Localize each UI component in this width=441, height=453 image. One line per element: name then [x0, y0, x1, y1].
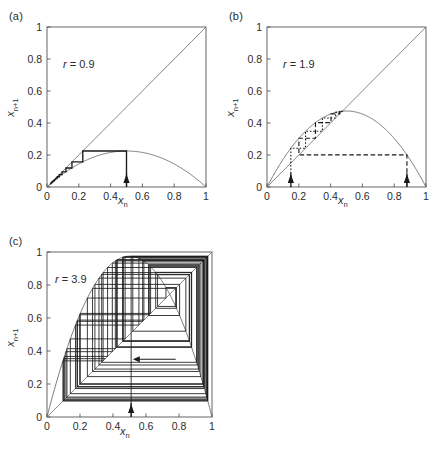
svg-text:1: 1 — [36, 21, 42, 33]
svg-text:0.2: 0.2 — [27, 378, 42, 390]
svg-text:0.2: 0.2 — [73, 420, 88, 432]
svg-text:0: 0 — [36, 181, 42, 193]
svg-text:0.6: 0.6 — [139, 420, 154, 432]
svg-text:0: 0 — [264, 190, 270, 202]
svg-text:1: 1 — [209, 420, 215, 432]
logistic-map-cobweb-figure: (a) r = 0.9 xn xn+1 00.20.40.60.8100.20.… — [0, 0, 441, 453]
svg-text:0.4: 0.4 — [323, 190, 338, 202]
svg-text:0.6: 0.6 — [355, 190, 370, 202]
svg-text:0: 0 — [36, 411, 42, 423]
svg-text:0.4: 0.4 — [27, 117, 42, 129]
svg-text:0.8: 0.8 — [247, 53, 262, 65]
svg-text:0.8: 0.8 — [172, 420, 187, 432]
svg-text:0.8: 0.8 — [27, 279, 42, 291]
svg-text:0: 0 — [256, 181, 262, 193]
svg-text:1: 1 — [256, 21, 262, 33]
svg-text:0.4: 0.4 — [106, 420, 121, 432]
svg-text:0.2: 0.2 — [247, 149, 262, 161]
svg-text:1: 1 — [36, 246, 42, 258]
svg-text:0.4: 0.4 — [27, 345, 42, 357]
svg-text:0.2: 0.2 — [27, 149, 42, 161]
svg-text:0.8: 0.8 — [27, 53, 42, 65]
svg-text:0.4: 0.4 — [103, 190, 118, 202]
panel-a-plot: 00.20.40.60.8100.20.40.60.81 — [0, 0, 220, 210]
svg-text:1: 1 — [423, 190, 429, 202]
svg-text:0.4: 0.4 — [247, 117, 262, 129]
svg-text:0.8: 0.8 — [387, 190, 402, 202]
panel-c-plot: 00.20.40.60.8100.20.40.60.81 — [0, 225, 230, 440]
svg-text:0: 0 — [44, 420, 50, 432]
svg-text:1: 1 — [203, 190, 209, 202]
svg-text:0.2: 0.2 — [71, 190, 86, 202]
svg-text:0.6: 0.6 — [27, 312, 42, 324]
svg-text:0.6: 0.6 — [247, 85, 262, 97]
svg-text:0.6: 0.6 — [135, 190, 150, 202]
svg-text:0.8: 0.8 — [167, 190, 182, 202]
svg-text:0: 0 — [44, 190, 50, 202]
svg-text:0.2: 0.2 — [291, 190, 306, 202]
svg-text:0.6: 0.6 — [27, 85, 42, 97]
panel-b-plot: 00.20.40.60.8100.20.40.60.81 — [220, 0, 441, 210]
